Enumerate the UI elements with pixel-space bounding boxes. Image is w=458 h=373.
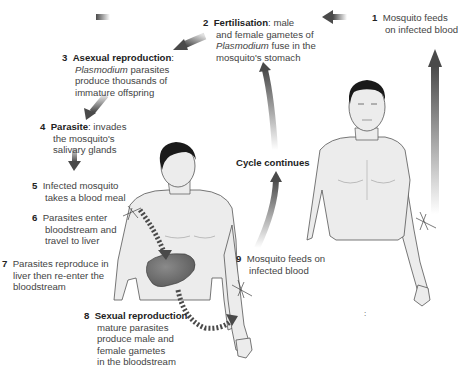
step-number: 4 bbox=[40, 121, 45, 132]
step-text: immature offspring bbox=[62, 87, 174, 99]
arrow-cycle-upper bbox=[259, 62, 275, 150]
arrow-2-to-3 bbox=[173, 36, 205, 50]
step-text: and female gametes of bbox=[203, 29, 316, 41]
step-text: bloodstream bbox=[2, 281, 109, 293]
step-text: bloodstream and bbox=[32, 224, 116, 236]
mosquito-icon bbox=[416, 212, 436, 230]
step-text: liver then re-enter the bbox=[2, 270, 109, 282]
step-text: produce male and bbox=[84, 333, 187, 345]
step-text: infected blood bbox=[236, 265, 325, 277]
human-figure-right bbox=[307, 80, 436, 306]
step-5-label: 5 Infected mosquito takes a blood meal bbox=[32, 180, 126, 203]
step-text: in the bloodstream bbox=[84, 356, 187, 368]
step-text: Parasites reproduce in bbox=[13, 258, 109, 269]
step-text: : bbox=[171, 52, 174, 63]
step-number: 6 bbox=[32, 212, 37, 223]
step-text: takes a blood meal bbox=[32, 192, 126, 204]
step-text: mosquito's stomach bbox=[203, 52, 316, 64]
step-number: 3 bbox=[62, 52, 67, 63]
step-heading: Sexual reproduction bbox=[95, 310, 188, 321]
step-text: Plasmodium parasites bbox=[62, 64, 174, 76]
step-text: Mosquito feeds bbox=[383, 12, 448, 23]
species-name: Plasmodium bbox=[216, 40, 269, 51]
step-4-label: 4 Parasite: invades the mosquito's saliv… bbox=[40, 121, 126, 156]
step-text: Parasites enter bbox=[43, 212, 108, 223]
cycle-continues-label: Cycle continues bbox=[236, 157, 310, 168]
step-number: 1 bbox=[372, 12, 377, 23]
step-text: travel to liver bbox=[32, 235, 116, 247]
step-number: 9 bbox=[236, 253, 241, 264]
step-heading: Parasite bbox=[51, 121, 88, 132]
step-2-label: 2 Fertilisation: male and female gametes… bbox=[203, 17, 316, 63]
step-8-label: 8 Sexual reproduction mature parasites p… bbox=[84, 310, 187, 368]
step-text: : male bbox=[268, 17, 294, 28]
step-text: the mosquito's bbox=[40, 133, 126, 145]
arrow-3-to-4 bbox=[84, 95, 106, 120]
step-9-label: 9 Mosquito feeds on infected blood bbox=[236, 253, 325, 276]
arrow-cycle-lower bbox=[257, 171, 282, 248]
arrow-right-up bbox=[428, 49, 442, 214]
step-text: salivary glands bbox=[40, 144, 126, 156]
step-text: Mosquito feeds on bbox=[247, 253, 325, 264]
step-6-label: 6 Parasites enter bloodstream and travel… bbox=[32, 212, 116, 247]
step-heading: Fertilisation bbox=[214, 17, 268, 28]
step-number: 8 bbox=[84, 310, 89, 321]
step-text: on infected blood bbox=[372, 24, 458, 36]
stray-mark: : bbox=[364, 308, 366, 320]
step-text: mature parasites bbox=[84, 322, 187, 334]
step-text: produce thousands of bbox=[62, 75, 174, 87]
step-text: Plasmodium fuse in the bbox=[203, 40, 316, 52]
step-number: 2 bbox=[203, 17, 208, 28]
step-heading: Asexual reproduction bbox=[73, 52, 172, 63]
step-7-label: 7 Parasites reproduce in liver then re-e… bbox=[2, 258, 109, 293]
step-number: 7 bbox=[2, 258, 7, 269]
step-text: Infected mosquito bbox=[43, 180, 119, 191]
step-number: 5 bbox=[32, 180, 37, 191]
species-name: Plasmodium bbox=[75, 64, 128, 75]
step-text: : invades bbox=[88, 121, 126, 132]
step-3-label: 3 Asexual reproduction: Plasmodium paras… bbox=[62, 52, 174, 98]
step-text: female gametes bbox=[84, 345, 187, 357]
step-1-label: 1 Mosquito feeds on infected blood bbox=[372, 12, 458, 35]
